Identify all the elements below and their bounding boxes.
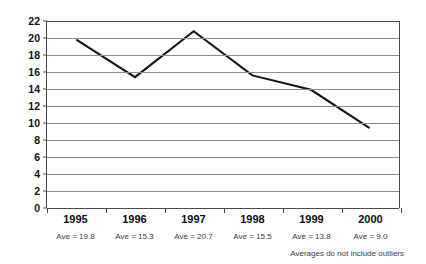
gridline-16	[47, 72, 399, 73]
x-axis-label-1999: 1999	[282, 212, 341, 228]
series-path	[76, 31, 369, 128]
chart-footnote: Averages do not include outliers	[290, 248, 404, 259]
gridline-0	[47, 208, 399, 209]
average-label-1995: Ave = 19.8	[46, 231, 105, 245]
y-tick-label-6: 6	[34, 152, 47, 163]
gridline-2	[47, 191, 399, 192]
x-tick-mark-6	[401, 208, 402, 213]
plot-area: 2220181614121086420	[46, 21, 400, 208]
gridline-8	[47, 140, 399, 141]
line-chart: 2220181614121086420 19951996199719981999…	[0, 0, 426, 264]
x-axis-label-1996: 1996	[105, 212, 164, 228]
y-tick-label-10: 10	[28, 118, 47, 129]
y-tick-label-2: 2	[34, 186, 47, 197]
x-axis-label-2000: 2000	[341, 212, 400, 228]
gridline-18	[47, 55, 399, 56]
gridline-6	[47, 157, 399, 158]
average-label-1997: Ave = 20.7	[164, 231, 223, 245]
gridline-22	[47, 21, 399, 22]
gridline-14	[47, 89, 399, 90]
y-tick-label-14: 14	[28, 84, 47, 95]
average-label-1998: Ave = 15.5	[223, 231, 282, 245]
y-tick-label-18: 18	[28, 50, 47, 61]
y-tick-label-22: 22	[28, 16, 47, 27]
gridline-4	[47, 174, 399, 175]
x-axis-label-1998: 1998	[223, 212, 282, 228]
y-tick-label-20: 20	[28, 33, 47, 44]
average-label-1999: Ave = 13.8	[282, 231, 341, 245]
gridline-12	[47, 106, 399, 107]
y-tick-label-8: 8	[34, 135, 47, 146]
average-label-2000: Ave = 9.0	[341, 231, 400, 245]
gridline-20	[47, 38, 399, 39]
y-tick-label-16: 16	[28, 67, 47, 78]
y-tick-label-12: 12	[28, 101, 47, 112]
average-label-1996: Ave = 15.3	[105, 231, 164, 245]
x-axis-label-1997: 1997	[164, 212, 223, 228]
gridline-10	[47, 123, 399, 124]
series-line-1	[47, 21, 399, 208]
x-axis-label-1995: 1995	[46, 212, 105, 228]
y-tick-label-4: 4	[34, 169, 47, 180]
x-axis-labels: 199519961997199819992000	[46, 212, 400, 228]
x-axis-average-labels: Ave = 19.8Ave = 15.3Ave = 20.7Ave = 15.5…	[46, 231, 400, 245]
